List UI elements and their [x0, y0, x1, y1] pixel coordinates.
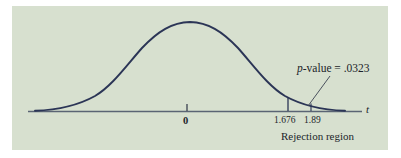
x-axis-label: t: [366, 104, 369, 115]
pvalue-remainder: -value = .0323: [303, 62, 370, 74]
pvalue-annotation: p-value = .0323: [297, 63, 370, 75]
tick-label-critical-value: 1.676: [274, 116, 295, 126]
pvalue-leader-line: [308, 76, 330, 106]
tick-label-zero: 0: [183, 116, 188, 127]
tick-label-test-statistic: 1.89: [304, 116, 321, 126]
rejection-region-label: Rejection region: [281, 131, 354, 142]
statistics-figure: p-value = .0323 0 1.676 1.89 t Rejection…: [0, 0, 401, 158]
